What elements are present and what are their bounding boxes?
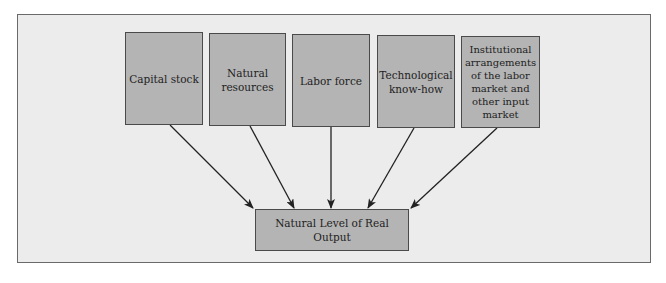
- input-label: Technological know-how: [379, 68, 452, 96]
- input-box-capital-stock: Capital stock: [125, 32, 203, 125]
- output-box-natural-level-of-real-output: Natural Level of Real Output: [255, 209, 409, 251]
- input-label: Natural resources: [221, 66, 273, 94]
- input-label: Institutional arrangements of the labor …: [465, 43, 536, 121]
- input-box-labor-force: Labor force: [292, 34, 370, 127]
- arrow-tech-to-output: [368, 128, 414, 208]
- output-label: Natural Level of Real Output: [259, 216, 405, 244]
- input-box-natural-resources: Natural resources: [209, 33, 286, 126]
- input-label: Labor force: [300, 74, 362, 88]
- input-box-technological-know-how: Technological know-how: [377, 35, 455, 128]
- input-label: Capital stock: [129, 72, 199, 86]
- arrow-natural-to-output: [250, 126, 294, 208]
- arrow-capital-to-output: [170, 125, 253, 208]
- arrow-institutional-to-output: [411, 128, 497, 208]
- input-box-institutional-arrangements: Institutional arrangements of the labor …: [461, 36, 540, 128]
